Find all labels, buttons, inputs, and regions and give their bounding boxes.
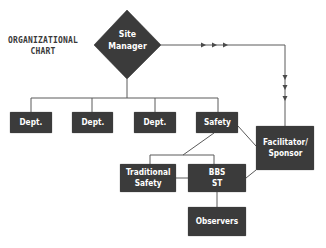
bbs-st-label: BBS ST xyxy=(209,167,226,189)
dept-label: Dept. xyxy=(81,117,104,128)
observers-node: Observers xyxy=(188,207,246,236)
site-manager-label: Site Manager xyxy=(108,28,147,52)
facilitator-sponsor-node: Facilitator/ Sponsor xyxy=(256,126,314,170)
dept-node-1: Dept. xyxy=(10,112,52,133)
arrowheads xyxy=(201,43,288,102)
safety-node: Safety xyxy=(196,112,238,133)
safety-label: Safety xyxy=(204,117,231,128)
site-manager-node: Site Manager xyxy=(94,28,161,52)
dept-label: Dept. xyxy=(144,117,167,128)
traditional-safety-label: Traditional Safety xyxy=(126,167,171,189)
dept-label: Dept. xyxy=(20,117,43,128)
bbs-st-node: BBS ST xyxy=(188,164,246,192)
chart-title: ORGANIZATIONAL CHART xyxy=(4,35,82,58)
traditional-safety-node: Traditional Safety xyxy=(120,164,176,192)
facilitator-label: Facilitator/ Sponsor xyxy=(263,137,308,159)
org-chart-diagram: ORGANIZATIONAL CHART Site Manager Dept. … xyxy=(0,0,326,248)
dept-node-3: Dept. xyxy=(134,112,176,133)
dept-node-2: Dept. xyxy=(72,112,113,133)
observers-label: Observers xyxy=(196,216,238,227)
